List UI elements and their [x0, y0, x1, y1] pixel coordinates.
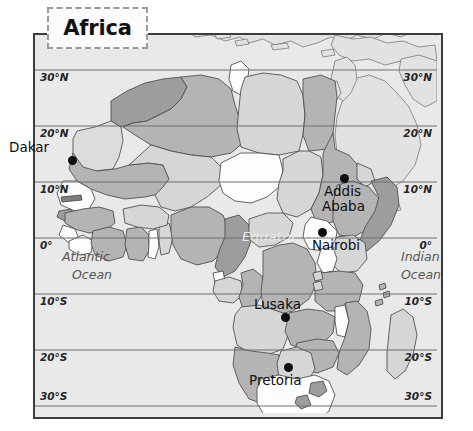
lat-label-right-30s: 30°S — [405, 390, 432, 402]
lat-label-left-20n: 20°N — [40, 127, 69, 139]
lat-label-left-10n: 10°N — [40, 183, 69, 195]
equator-label: Equator — [242, 229, 297, 244]
lat-label-left-20s: 20°S — [40, 351, 67, 363]
map-title: Africa — [63, 16, 131, 40]
lat-label-right-20s: 20°S — [405, 351, 432, 363]
atlantic-ocean-line2: Ocean — [72, 266, 112, 284]
city-label-lusaka: Lusaka — [254, 297, 301, 312]
city-dot-lusaka — [281, 313, 290, 322]
indian-ocean-line2: Ocean — [401, 266, 441, 284]
lat-label-right-10n: 10°N — [403, 183, 432, 195]
lat-label-left-30s: 30°S — [40, 390, 67, 402]
city-label-dakar: Dakar — [9, 140, 49, 155]
city-dot-pretoria — [284, 363, 293, 372]
indian-ocean-label: Indian Ocean — [401, 248, 441, 284]
map-figure: 30°N 20°N 10°N 0° 10°S 20°S 30°S 30°N 20… — [0, 0, 473, 431]
lat-label-left-10s: 10°S — [40, 295, 67, 307]
atlantic-ocean-label: Atlantic Ocean — [62, 248, 112, 284]
lat-label-right-10s: 10°S — [405, 295, 432, 307]
map-title-box: Africa — [47, 7, 148, 49]
city-label-addis-ababa-line2: Ababa — [322, 199, 365, 214]
lat-label-right-30n: 30°N — [403, 71, 432, 83]
lat-label-right-20n: 20°N — [403, 127, 432, 139]
lat-label-left-30n: 30°N — [40, 71, 69, 83]
city-dot-addis-ababa — [340, 174, 349, 183]
africa-map-svg — [35, 35, 437, 413]
atlantic-ocean-line1: Atlantic — [62, 248, 112, 266]
city-dot-dakar — [68, 156, 77, 165]
indian-ocean-line1: Indian — [401, 248, 441, 266]
city-label-pretoria: Pretoria — [249, 373, 302, 388]
lat-label-left-0: 0° — [40, 239, 53, 251]
map-frame — [33, 33, 443, 419]
city-label-addis-ababa-line1: Addis — [324, 184, 361, 199]
city-label-nairobi: Nairobi — [312, 238, 360, 253]
city-dot-nairobi — [318, 228, 327, 237]
